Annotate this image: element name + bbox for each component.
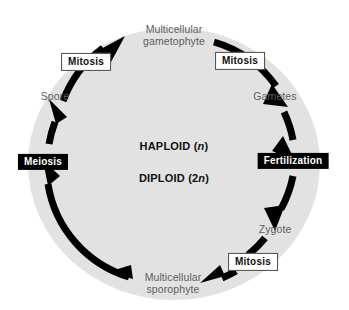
stage-label-sporophyte: Multicellular sporophyte [145, 272, 202, 296]
process-box-mitosis-zygote-to-sporophyte[interactable]: Mitosis [228, 253, 278, 271]
stage-label-spore: Spore [41, 91, 70, 103]
process-box-fertilization[interactable]: Fertilization [258, 153, 329, 169]
ploidy-label-haploid: HAPLOID (n) [140, 140, 209, 152]
life-cycle-diagram: Multicellular gametophyte Gametes Zygote… [0, 0, 349, 310]
stage-label-gametes: Gametes [253, 91, 296, 103]
process-box-meiosis[interactable]: Meiosis [18, 154, 68, 170]
process-box-mitosis-spore-to-gametophyte[interactable]: Mitosis [61, 53, 111, 71]
stage-label-zygote: Zygote [259, 224, 292, 236]
process-box-mitosis-gametophyte-to-gametes[interactable]: Mitosis [215, 52, 265, 70]
stage-label-gametophyte: Multicellular gametophyte [143, 24, 205, 48]
ploidy-label-diploid: DIPLOID (2n) [139, 172, 209, 184]
